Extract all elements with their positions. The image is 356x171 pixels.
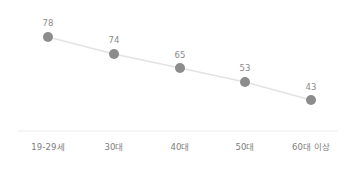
x-axis-category-label: 30대 [104,143,123,152]
data-point-value-label: 65 [174,51,185,60]
x-axis-category-label: 19-29세 [31,143,64,152]
data-point-marker[interactable] [109,49,119,59]
data-point-marker[interactable] [175,63,185,73]
data-point-value-label: 53 [239,64,250,73]
line-chart: 7874655343 19-29세30대40대50대60대 이상 [0,0,356,171]
data-point-marker[interactable] [306,95,316,105]
x-axis-category-label: 60대 이상 [292,143,330,152]
data-point-marker[interactable] [240,77,250,87]
data-point-value-label: 78 [42,19,53,28]
data-point-value-label: 74 [108,36,119,45]
data-point-marker[interactable] [43,32,53,42]
x-axis-category-label: 50대 [235,143,254,152]
data-point-value-label: 43 [305,83,316,92]
x-axis-category-label: 40대 [170,143,189,152]
series-markers [43,32,316,105]
